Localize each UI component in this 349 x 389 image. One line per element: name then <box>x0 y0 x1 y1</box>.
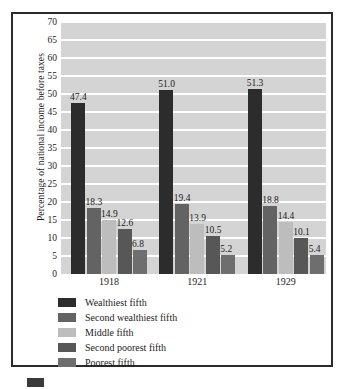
legend-item-label: Poorest fifth <box>85 357 135 368</box>
y-axis-tick-label: 0 <box>31 269 57 279</box>
legend-swatch-icon <box>58 298 76 307</box>
stray-legend-swatch-icon <box>27 378 44 387</box>
legend-item[interactable]: Wealthiest fifth <box>58 295 308 310</box>
x-axis-tick-label: 1921 <box>187 276 207 287</box>
y-axis-tick-label: 50 <box>31 89 57 99</box>
legend-item[interactable]: Second wealthiest fifth <box>58 310 308 325</box>
bar[interactable] <box>102 220 116 274</box>
bar[interactable] <box>294 238 308 274</box>
bar[interactable] <box>118 229 132 274</box>
legend-item-label: Second wealthiest fifth <box>85 312 177 323</box>
bar-value-label: 6.8 <box>132 239 144 249</box>
bar[interactable] <box>310 255 324 274</box>
bar[interactable] <box>190 224 204 274</box>
legend-swatch-icon <box>58 328 76 337</box>
legend-swatch-icon <box>58 358 76 367</box>
bar[interactable] <box>133 250 147 274</box>
y-axis-tick-label: 45 <box>31 107 57 117</box>
y-axis-tick-label: 30 <box>31 161 57 171</box>
x-axis-tick-labels: 191819211929 <box>61 276 326 292</box>
bar-group: 47.418.314.912.66.8 <box>61 22 149 274</box>
bar-value-label: 14.4 <box>278 211 295 221</box>
bar-value-label: 14.9 <box>101 209 118 219</box>
y-axis-tick-label: 35 <box>31 143 57 153</box>
y-axis-tick-label: 20 <box>31 197 57 207</box>
y-axis-tick-label: 5 <box>31 251 57 261</box>
bar-group: 51.019.413.910.55.2 <box>149 22 237 274</box>
bar-value-label: 19.4 <box>174 193 191 203</box>
legend-item-label: Middle fifth <box>85 327 134 338</box>
legend-item[interactable]: Second poorest fifth <box>58 340 308 355</box>
y-axis-tick-label: 55 <box>31 71 57 81</box>
bar[interactable] <box>206 236 220 274</box>
y-axis-tick-label: 60 <box>31 53 57 63</box>
bar[interactable] <box>221 255 235 274</box>
bar-group: 51.318.814.410.15.4 <box>238 22 326 274</box>
y-axis-tick-labels: 0510152025303540455055606570 <box>31 22 57 274</box>
bar-value-label: 18.8 <box>262 195 279 205</box>
y-axis-tick-label: 70 <box>31 17 57 27</box>
y-axis-tick-label: 65 <box>31 35 57 45</box>
bar-value-label: 10.5 <box>205 225 222 235</box>
bar[interactable] <box>71 103 85 274</box>
y-axis-tick-label: 40 <box>31 125 57 135</box>
legend-item-label: Wealthiest fifth <box>85 297 147 308</box>
bar[interactable] <box>248 89 262 274</box>
bar-value-label: 51.3 <box>247 78 264 88</box>
chart-figure-frame: Percentage of national income before tax… <box>11 12 333 367</box>
legend-swatch-icon <box>58 313 76 322</box>
bar[interactable] <box>263 206 277 274</box>
bar[interactable] <box>87 208 101 274</box>
bar-value-label: 51.0 <box>158 79 175 89</box>
y-axis-tick-label: 10 <box>31 233 57 243</box>
legend-item[interactable]: Middle fifth <box>58 325 308 340</box>
bar-value-label: 12.6 <box>117 218 134 228</box>
bar[interactable] <box>279 222 293 274</box>
y-axis-tick-label: 25 <box>31 179 57 189</box>
bar-value-label: 13.9 <box>189 213 206 223</box>
bar-value-label: 5.4 <box>309 244 321 254</box>
y-axis-tick-label: 15 <box>31 215 57 225</box>
bar[interactable] <box>159 90 173 274</box>
chart-legend: Wealthiest fifthSecond wealthiest fifthM… <box>58 295 308 370</box>
bar-value-label: 47.4 <box>70 92 87 102</box>
x-axis-tick-label: 1929 <box>276 276 296 287</box>
plot-area: 47.418.314.912.66.851.019.413.910.55.251… <box>61 22 326 274</box>
bar-value-label: 5.2 <box>220 244 232 254</box>
legend-swatch-icon <box>58 343 76 352</box>
legend-item[interactable]: Poorest fifth <box>58 355 308 370</box>
bar[interactable] <box>175 204 189 274</box>
x-axis-tick-label: 1918 <box>99 276 119 287</box>
bar-value-label: 10.1 <box>293 227 310 237</box>
legend-item-label: Second poorest fifth <box>85 342 166 353</box>
bar-value-label: 18.3 <box>86 197 103 207</box>
